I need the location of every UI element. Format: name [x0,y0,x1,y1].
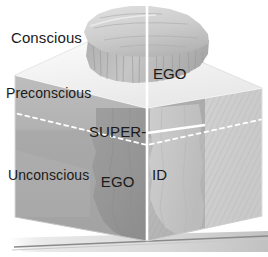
label-ego: EGO [153,66,187,83]
label-conscious: Conscious [11,30,82,47]
label-id: ID [152,167,167,184]
label-superego-line2: EGO [89,174,146,191]
label-superego-line1: SUPER- [89,124,146,141]
label-unconscious: Unconscious [8,168,89,184]
label-preconscious: Preconscious [6,86,91,102]
freud-iceberg-diagram: Conscious Preconscious Unconscious SUPER… [0,0,268,257]
label-superego: SUPER- EGO [89,90,146,224]
